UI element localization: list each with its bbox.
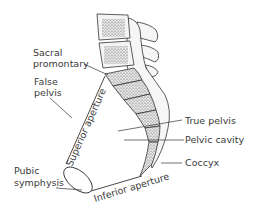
vertebra-body-2 <box>104 46 128 64</box>
label-coccyx: Coccyx <box>185 157 220 168</box>
label-pubic-symphysis-2: symphysis <box>14 177 64 188</box>
label-pelvic-cavity: Pelvic cavity <box>185 134 244 145</box>
label-sacral-promontory-2: promontary <box>33 58 89 69</box>
label-superior-aperture: Superior aperture <box>64 86 108 167</box>
pubic-symphysis-shape <box>59 162 97 198</box>
label-sacral-promontory-1: Sacral <box>33 47 62 58</box>
label-false-pelvis-2: pelvis <box>34 87 62 98</box>
pelvis-diagram: Sacral promontary False pelvis Superior … <box>0 0 259 207</box>
vertebra-body-1 <box>102 19 125 37</box>
label-pubic-symphysis-1: Pubic <box>14 165 39 176</box>
label-true-pelvis: True pelvis <box>184 115 236 126</box>
label-false-pelvis-1: False <box>34 76 58 87</box>
lumbar-vertebrae <box>97 14 134 68</box>
